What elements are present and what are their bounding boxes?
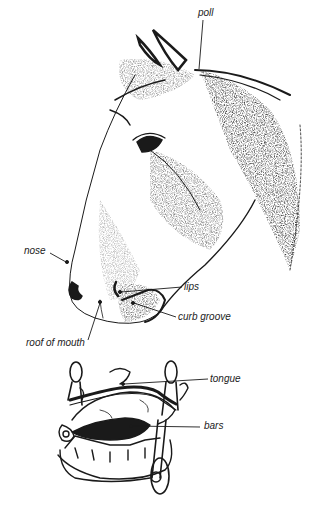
mouth-bit-illustration — [0, 0, 330, 524]
label-nose: nose — [24, 246, 46, 256]
label-curb-groove: curb groove — [178, 312, 231, 322]
diagram-canvas: poll nose lips curb groove roof of mouth… — [0, 0, 330, 524]
label-bars: bars — [204, 421, 223, 431]
label-roof-of-mouth: roof of mouth — [26, 338, 85, 348]
label-tongue: tongue — [210, 374, 241, 384]
label-poll: poll — [198, 8, 214, 18]
label-lips: lips — [184, 282, 199, 292]
